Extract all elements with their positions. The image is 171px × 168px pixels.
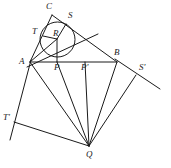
segment-Tp-to-Q (14, 122, 89, 146)
point-label-A: A (19, 57, 25, 66)
segment-Q-to-Pp (85, 62, 89, 146)
point-label-Sp: S' (139, 63, 145, 72)
point-label-T: T (32, 27, 37, 36)
segment-Q-to-Sp (89, 75, 136, 146)
point-label-B: B (114, 48, 120, 57)
segment-B-to-Sp-ray (115, 59, 160, 89)
geometry-canvas (0, 0, 171, 168)
segment-Q-to-A (30, 62, 89, 146)
segment-A-to-Tp-ray (10, 60, 31, 140)
point-label-Tp: T' (3, 113, 10, 122)
segment-Q-to-P (57, 62, 89, 146)
point-label-R: R (53, 29, 59, 38)
point-label-C: C (46, 2, 52, 11)
segment-Q-to-B (89, 62, 117, 146)
geometry-figure: CSTRAPP'BS'T'Q (0, 0, 171, 168)
point-label-S: S (68, 11, 73, 20)
point-label-Q: Q (86, 150, 93, 159)
point-label-P: P (54, 63, 60, 72)
point-label-Pp: P' (81, 63, 88, 72)
